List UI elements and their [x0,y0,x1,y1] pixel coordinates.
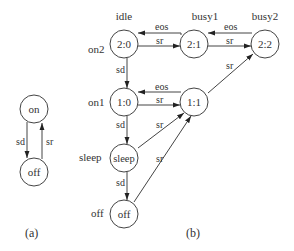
svg-text:2:1: 2:1 [187,38,201,50]
figure-b: idle busy1 busy2 on2 on1 sleep off eos s… [79,10,279,240]
node-a-on: on [20,95,48,123]
state-label-idle: idle [116,10,133,22]
edge-10-11-sr: sr [138,94,180,105]
edge-label: sd [116,119,125,130]
svg-text:off: off [118,208,131,220]
edge-label: sr [226,35,234,46]
edge-sleep-11-sr: sr [138,113,184,148]
row-label-sleep: sleep [79,151,102,163]
edge-sleep-off-sd: sd [116,171,127,200]
edge-label: eos [224,21,237,32]
edge-21-20-eos: eos [138,21,181,35]
edge-label: eos [155,21,168,32]
edge-label: sr [46,136,54,147]
edge-label: sr [156,153,164,164]
svg-text:2:0: 2:0 [117,38,132,50]
edge-21-22-sr: sr [208,35,251,46]
node-2-1: 2:1 [180,30,208,58]
edge-a-on-off-sd: sd [16,122,27,158]
svg-text:sleep: sleep [113,153,135,164]
edge-label: sr [156,94,164,105]
edge-label: sd [116,64,125,75]
node-1-1: 1:1 [180,88,208,116]
node-2-0: 2:0 [110,30,138,58]
svg-text:on: on [29,103,41,115]
state-label-busy2: busy2 [252,10,278,22]
edge-label: sr [156,35,164,46]
edge-label: sd [16,136,25,147]
state-label-busy1: busy1 [192,10,218,22]
edge-label: eos [155,81,168,92]
caption-b: (b) [186,226,200,240]
svg-text:1:0: 1:0 [117,96,132,108]
node-2-2: 2:2 [251,30,279,58]
state-diagram: sd sr on off (a) idle busy1 busy2 on2 on… [0,0,294,251]
edge-20-10-sd: sd [116,58,127,88]
row-label-on2: on2 [88,43,105,55]
caption-a: (a) [25,226,38,240]
svg-text:1:1: 1:1 [187,96,201,108]
node-sleep: sleep [110,144,138,172]
edge-11-22-sr: sr [208,54,253,93]
edge-label: sr [156,119,164,130]
svg-text:2:2: 2:2 [258,38,272,50]
edge-20-21-sr: sr [138,35,180,46]
edge-11-10-eos: eos [138,81,181,92]
svg-text:off: off [28,166,41,178]
node-1-0: 1:0 [110,88,138,116]
edge-label: sd [116,177,125,188]
row-label-off: off [91,207,104,219]
edge-22-21-eos: eos [208,21,252,33]
edge-label: sr [226,60,234,71]
figure-a: sd sr on off (a) [16,95,54,240]
node-a-off: off [20,158,48,186]
edge-10-sleep-sd: sd [116,116,127,144]
row-label-on1: on1 [88,96,105,108]
node-off: off [110,200,138,228]
edge-a-off-on-sr: sr [42,123,54,159]
